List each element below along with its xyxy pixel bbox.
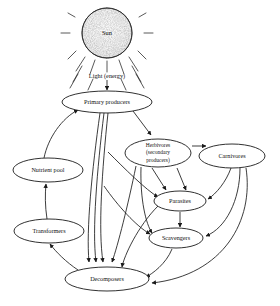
node-nutrient-pool[interactable]: Nutrient pool [13,158,83,182]
edge-transformers-to-nutrient-pool [45,184,47,219]
sun-group: Sun Light (energy) [61,8,153,90]
node-decomposers[interactable]: Decomposers [65,267,149,291]
edge-primary-producers-to-decomposers-b [95,113,104,262]
food-web-diagram: Sun Light (energy) [0,0,280,306]
node-herbivores-label-line3: producers) [146,157,170,164]
food-web-canvas: Sun Light (energy) [0,0,280,306]
edges-group [44,110,247,283]
light-energy-label: Light (energy) [89,72,125,80]
edge-herbivores-to-scavengers [141,167,152,233]
node-decomposers-label: Decomposers [90,275,124,282]
node-scavengers-label: Scavengers [162,234,191,241]
node-carnivores-label: Carnivores [218,152,246,159]
edge-scavengers-to-decomposers [146,249,172,277]
edge-carnivores-to-decomposers [152,168,247,283]
sun-label: Sun [102,29,113,36]
node-primary-producers[interactable]: Primary producers [62,91,152,113]
edge-carnivores-to-parasites [208,168,231,199]
edge-herbivores-to-parasites-b [177,168,186,190]
edge-nutrient-pool-to-primary-producers [44,110,78,158]
node-herbivores[interactable]: Herbivores (secondary producers) [125,139,191,167]
nodes-group: Primary producers Herbivores (secondary … [13,91,265,291]
node-transformers[interactable]: Transformers [14,219,84,243]
node-parasites[interactable]: Parasites [154,191,206,211]
edge-herbivores-to-parasites-a [152,168,166,190]
node-transformers-label: Transformers [32,227,66,234]
node-scavengers[interactable]: Scavengers [149,228,203,248]
edge-decomposers-to-transformers [50,244,78,270]
node-carnivores[interactable]: Carnivores [199,144,265,168]
edge-herbivores-to-decomposers [112,166,136,262]
node-primary-producers-label: Primary producers [84,98,130,105]
edge-primary-producers-to-herbivores [133,111,151,135]
node-herbivores-label-line1: Herbivores [146,142,170,148]
edge-carnivores-to-scavengers [206,168,240,236]
edge-primary-producers-to-decomposers-c [101,113,108,262]
node-herbivores-label-line2: (secondary [146,149,170,156]
edge-producers-to-scavengers-cross [104,186,150,234]
node-parasites-label: Parasites [169,197,192,204]
edge-primary-producers-to-decomposers-a [88,113,100,262]
node-nutrient-pool-label: Nutrient pool [31,166,64,173]
